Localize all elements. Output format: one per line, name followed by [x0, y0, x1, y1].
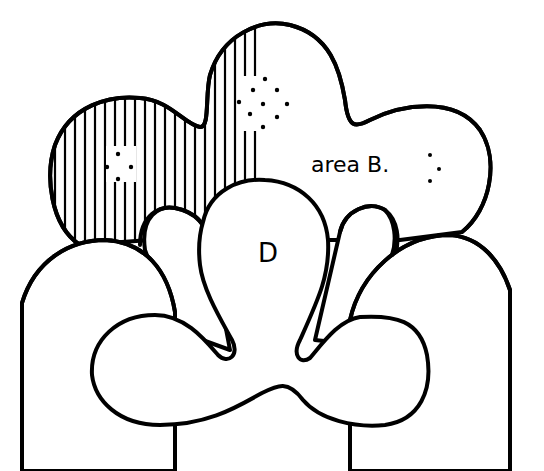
label-d: D	[258, 238, 278, 268]
dot-gap-left	[106, 146, 136, 182]
label-area-b: area B.	[311, 152, 389, 177]
diagram-canvas: D area B.	[0, 0, 544, 471]
